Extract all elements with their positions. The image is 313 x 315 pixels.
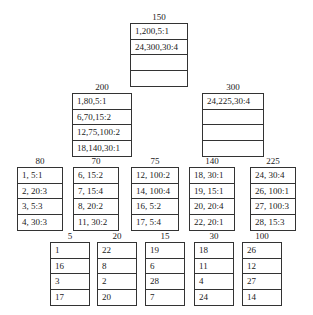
node-entry: 11 [195, 259, 233, 275]
tree-node-15: 15196287 [145, 231, 185, 306]
node-entry: 2, 20:3 [18, 184, 62, 200]
tree-node-80: 801, 5:12, 20:33, 5:34, 30:3 [17, 156, 63, 231]
node-entry: 3, 5:3 [18, 199, 62, 215]
node-entry-table: 18, 30:119, 15:120, 20:422, 20:1 [189, 167, 235, 231]
tree-node-150: 1501,200,5:124,300,30:4 [130, 12, 188, 87]
tree-node-20: 20228220 [97, 231, 137, 306]
node-entry: 12,75,100:2 [73, 125, 131, 141]
node-key-label: 150 [130, 12, 188, 23]
node-entry: 22, 20:1 [190, 215, 234, 231]
node-entry: 27 [243, 274, 281, 290]
node-entry [131, 71, 187, 87]
node-entry: 26, 100:1 [251, 184, 295, 200]
node-key-label: 140 [189, 156, 235, 167]
node-entry-table: 1,80,5:16,70,15:212,75,100:218,140,30:1 [72, 93, 132, 157]
node-entry: 14 [243, 290, 281, 306]
node-entry: 20, 20:4 [190, 199, 234, 215]
tree-node-200: 2001,80,5:16,70,15:212,75,100:218,140,30… [72, 82, 132, 157]
node-entry: 24,300,30:4 [131, 40, 187, 56]
node-entry: 1, 5:1 [18, 168, 62, 184]
node-entry: 6, 15:2 [74, 168, 118, 184]
tree-node-5: 5116317 [50, 231, 90, 306]
node-entry: 2 [98, 274, 136, 290]
tree-node-75: 7512, 100:214, 100:416, 5:217, 5:4 [131, 156, 179, 231]
node-entry-table: 1, 5:12, 20:33, 5:34, 30:3 [17, 167, 63, 231]
node-key-label: 5 [50, 231, 90, 242]
node-entry [203, 141, 263, 157]
node-entry [203, 110, 263, 126]
node-entry: 3 [51, 274, 89, 290]
node-entry: 4, 30:3 [18, 215, 62, 231]
node-entry [203, 125, 263, 141]
node-entry: 8, 20:2 [74, 199, 118, 215]
node-entry: 18,140,30:1 [73, 141, 131, 157]
node-entry: 16 [51, 259, 89, 275]
node-entry: 27, 100:3 [251, 199, 295, 215]
node-key-label: 80 [17, 156, 63, 167]
node-entry-table: 6, 15:27, 15:48, 20:211, 30:2 [73, 167, 119, 231]
node-entry: 11, 30:2 [74, 215, 118, 231]
node-key-label: 15 [145, 231, 185, 242]
node-key-label: 300 [202, 82, 264, 93]
node-entry: 28, 15:3 [251, 215, 295, 231]
node-key-label: 100 [242, 231, 282, 242]
node-entry: 1 [51, 243, 89, 259]
node-entry-table: 24, 30:426, 100:127, 100:328, 15:3 [250, 167, 296, 231]
tree-node-225: 22524, 30:426, 100:127, 100:328, 15:3 [250, 156, 296, 231]
node-entry-table: 228220 [97, 242, 137, 306]
node-entry-table: 24,225,30:4 [202, 93, 264, 157]
tree-node-100: 10026122714 [242, 231, 282, 306]
tree-node-140: 14018, 30:119, 15:120, 20:422, 20:1 [189, 156, 235, 231]
node-entry: 18, 30:1 [190, 168, 234, 184]
node-entry: 8 [98, 259, 136, 275]
node-key-label: 30 [194, 231, 234, 242]
node-entry: 20 [98, 290, 136, 306]
node-key-label: 75 [131, 156, 179, 167]
node-entry: 24 [195, 290, 233, 306]
node-key-label: 20 [97, 231, 137, 242]
node-entry: 22 [98, 243, 136, 259]
node-entry-table: 116317 [50, 242, 90, 306]
node-entry: 7, 15:4 [74, 184, 118, 200]
node-entry: 24,225,30:4 [203, 94, 263, 110]
node-key-label: 200 [72, 82, 132, 93]
node-entry-table: 12, 100:214, 100:416, 5:217, 5:4 [131, 167, 179, 231]
node-entry: 4 [195, 274, 233, 290]
node-entry: 6 [146, 259, 184, 275]
tree-node-70: 706, 15:27, 15:48, 20:211, 30:2 [73, 156, 119, 231]
node-entry: 7 [146, 290, 184, 306]
node-entry: 26 [243, 243, 281, 259]
node-entry: 17, 5:4 [132, 215, 178, 231]
node-entry: 19, 15:1 [190, 184, 234, 200]
node-entry: 17 [51, 290, 89, 306]
tree-node-300: 30024,225,30:4 [202, 82, 264, 157]
node-entry: 1,80,5:1 [73, 94, 131, 110]
node-entry-table: 196287 [145, 242, 185, 306]
node-entry-table: 1811424 [194, 242, 234, 306]
node-entry: 12, 100:2 [132, 168, 178, 184]
node-entry-table: 1,200,5:124,300,30:4 [130, 23, 188, 87]
node-entry: 18 [195, 243, 233, 259]
node-entry: 6,70,15:2 [73, 110, 131, 126]
node-entry: 19 [146, 243, 184, 259]
node-entry: 16, 5:2 [132, 199, 178, 215]
node-entry: 1,200,5:1 [131, 24, 187, 40]
node-key-label: 70 [73, 156, 119, 167]
node-entry [131, 55, 187, 71]
node-entry: 12 [243, 259, 281, 275]
node-entry-table: 26122714 [242, 242, 282, 306]
tree-node-30: 301811424 [194, 231, 234, 306]
node-entry: 24, 30:4 [251, 168, 295, 184]
node-entry: 14, 100:4 [132, 184, 178, 200]
node-key-label: 225 [250, 156, 296, 167]
node-entry: 28 [146, 274, 184, 290]
